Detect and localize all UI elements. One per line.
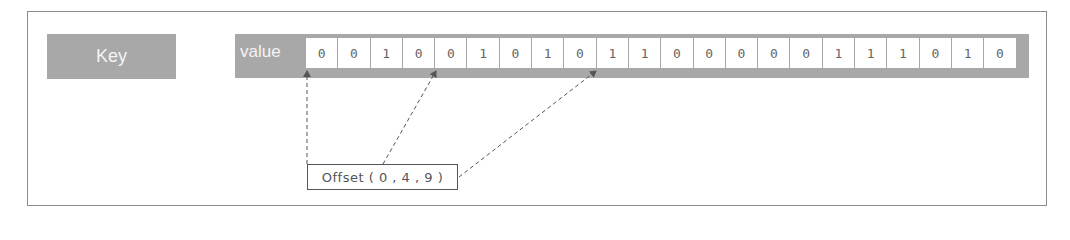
offset-label: Offset ( 0 , 4 , 9 ) <box>322 170 443 185</box>
bit-cell: 0 <box>726 38 757 68</box>
bit-cell: 0 <box>403 38 434 68</box>
bit-cell: 0 <box>435 38 466 68</box>
bit-cell: 0 <box>661 38 692 68</box>
bit-cell: 1 <box>629 38 660 68</box>
key-box: Key <box>47 34 176 79</box>
bit-cell: 1 <box>887 38 918 68</box>
bit-cell: 0 <box>790 38 821 68</box>
bit-cell: 0 <box>500 38 531 68</box>
bit-cell: 1 <box>855 38 886 68</box>
bit-cell: 0 <box>338 38 369 68</box>
bit-cell: 0 <box>920 38 951 68</box>
bit-cell: 0 <box>564 38 595 68</box>
bit-cell: 1 <box>823 38 854 68</box>
offset-box: Offset ( 0 , 4 , 9 ) <box>307 164 458 190</box>
key-label: Key <box>96 46 127 67</box>
bit-cell: 1 <box>371 38 402 68</box>
bit-cells: 0 0 1 0 0 1 0 1 0 1 1 0 0 0 0 0 1 1 1 0 … <box>306 38 1017 68</box>
bit-cell: 0 <box>694 38 725 68</box>
bit-cell: 1 <box>532 38 563 68</box>
bit-cell: 1 <box>597 38 628 68</box>
bit-cell: 1 <box>467 38 498 68</box>
bit-cell: 0 <box>984 38 1015 68</box>
value-label: value <box>240 34 281 68</box>
bit-cell: 1 <box>952 38 983 68</box>
bit-cell: 0 <box>758 38 789 68</box>
bit-cell: 0 <box>306 38 337 68</box>
